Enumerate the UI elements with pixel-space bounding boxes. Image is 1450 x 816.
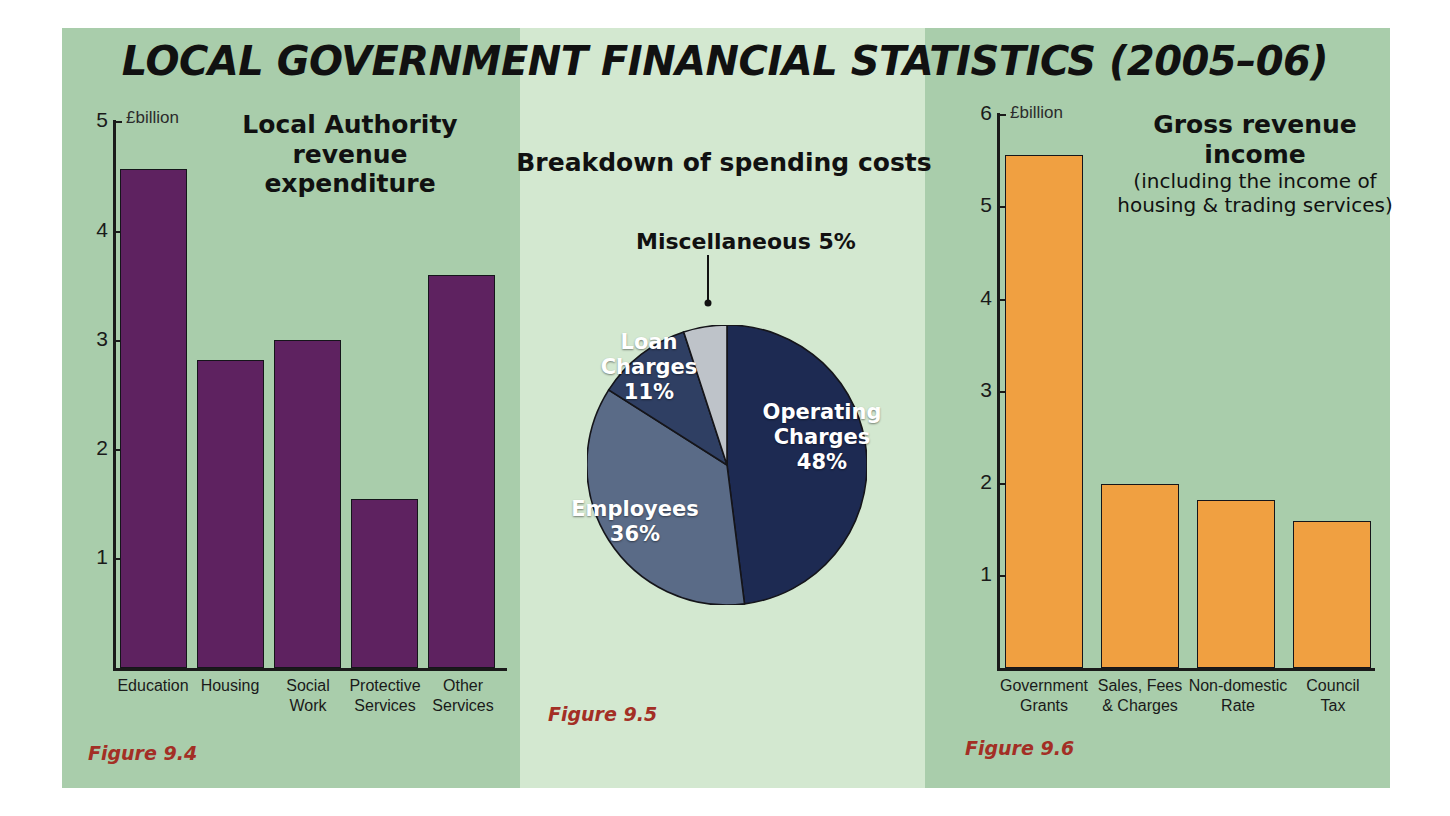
right-chart-title-line2: income (1204, 140, 1305, 169)
right-chart-subtitle-line1: (including the income of (1115, 169, 1395, 193)
pie-label-loan-charges-value: 11% (624, 380, 674, 404)
middle-chart-title: Breakdown of spending costs (500, 148, 948, 178)
right-tick-label-2: 2 (962, 470, 992, 494)
pie-label-employees-value: 36% (610, 522, 660, 546)
cat-label-sales-fees-charges-line2: & Charges (1102, 697, 1178, 714)
cat-label-protective-services-line1: Protective (349, 677, 420, 694)
cat-label-non-domestic-rate: Non-domestic Rate (1178, 676, 1298, 716)
right-tick-label-6: 6 (962, 101, 992, 125)
left-tick-label-2: 2 (78, 436, 108, 460)
right-tick-label-3: 3 (962, 378, 992, 402)
left-tick-label-1: 1 (78, 545, 108, 569)
cat-label-government-grants-line2: Grants (1020, 697, 1068, 714)
pie-label-operating-charges-line2: Charges (774, 425, 871, 449)
right-chart-title: Gross revenue income (including the inco… (1115, 110, 1395, 217)
bar-non-domestic-rate (1197, 500, 1275, 668)
left-chart-title-line1: Local Authority (242, 110, 457, 139)
left-tick-label-3: 3 (78, 327, 108, 351)
left-chart-title-line3: expenditure (264, 169, 435, 198)
left-tick-5 (113, 121, 122, 123)
cat-label-council-tax: Council Tax (1285, 676, 1381, 716)
left-y-axis (113, 120, 116, 670)
left-x-axis (113, 668, 507, 671)
cat-label-housing-line1: Housing (201, 677, 260, 694)
figure-caption-9-5: Figure 9.5 (548, 703, 657, 725)
miscellaneous-callout-label: Miscellaneous 5% (636, 229, 856, 254)
callout-leader-line (690, 255, 730, 315)
cat-label-social-work-line1: Social (286, 677, 330, 694)
page-title: LOCAL GOVERNMENT FINANCIAL STATISTICS (2… (0, 38, 1450, 84)
bar-housing (197, 360, 264, 668)
cat-label-council-tax-line1: Council (1306, 677, 1359, 694)
infographic-page: LOCAL GOVERNMENT FINANCIAL STATISTICS (2… (0, 0, 1450, 816)
right-chart-subtitle-line2: housing & trading services) (1115, 193, 1395, 217)
right-tick-6 (997, 114, 1006, 116)
cat-label-government-grants: Government Grants (986, 676, 1102, 716)
pie-label-loan-charges-line2: Charges (601, 355, 698, 379)
bar-other-services (428, 275, 495, 668)
bar-government-grants (1005, 155, 1083, 668)
cat-label-other-services: Other Services (415, 676, 511, 716)
bar-sales-fees-charges (1101, 484, 1179, 668)
figure-caption-9-4: Figure 9.4 (88, 742, 197, 764)
cat-label-government-grants-line1: Government (1000, 677, 1088, 694)
cat-label-social-work-line2: Work (289, 697, 326, 714)
pie-label-employees: Employees 36% (555, 497, 715, 547)
right-tick-label-4: 4 (962, 286, 992, 310)
figure-caption-9-6: Figure 9.6 (965, 737, 1074, 759)
left-chart-title: Local Authority revenue expenditure (200, 110, 500, 199)
pie-label-loan-charges: Loan Charges 11% (589, 330, 709, 406)
pie-label-loan-charges-line1: Loan (621, 330, 678, 354)
right-chart-unit-label: £billion (1010, 103, 1063, 123)
bar-social-work (274, 340, 341, 668)
left-chart-title-line2: revenue (292, 140, 407, 169)
left-tick-label-5: 5 (78, 108, 108, 132)
cat-label-other-services-line2: Services (432, 697, 493, 714)
left-tick-label-4: 4 (78, 218, 108, 242)
pie-label-operating-charges-value: 48% (797, 450, 847, 474)
right-tick-label-1: 1 (962, 562, 992, 586)
cat-label-non-domestic-rate-line2: Rate (1221, 697, 1255, 714)
left-chart-unit-label: £billion (126, 108, 179, 128)
right-x-axis (997, 668, 1375, 671)
pie-label-operating-charges: Operating Charges 48% (742, 400, 902, 476)
bar-council-tax (1293, 521, 1371, 668)
cat-label-non-domestic-rate-line1: Non-domestic (1189, 677, 1288, 694)
right-chart-title-line1: Gross revenue (1153, 110, 1357, 139)
cat-label-protective-services-line2: Services (354, 697, 415, 714)
cat-label-sales-fees-charges-line1: Sales, Fees (1098, 677, 1182, 694)
pie-label-employees-line1: Employees (571, 497, 699, 521)
cat-label-education-line1: Education (117, 677, 188, 694)
pie-label-operating-charges-line1: Operating (763, 400, 882, 424)
cat-label-other-services-line1: Other (443, 677, 483, 694)
right-tick-label-5: 5 (962, 193, 992, 217)
bar-education (120, 169, 187, 668)
cat-label-council-tax-line2: Tax (1321, 697, 1346, 714)
bar-protective-services (351, 499, 418, 668)
